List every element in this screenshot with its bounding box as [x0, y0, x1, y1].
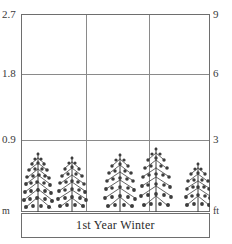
caption-box: 1st Year Winter	[21, 213, 210, 238]
axis-tick-right-6: 6	[213, 68, 232, 79]
axis-unit-left-metres: m	[2, 205, 21, 216]
tree-illustration-4	[133, 146, 179, 212]
axis-tick-left-0-9: 0.9	[2, 134, 21, 145]
tree-illustration-2	[49, 154, 95, 212]
tree-illustration-5	[177, 160, 210, 212]
caption-label: 1st Year Winter	[76, 218, 155, 233]
axis-unit-right-feet: ft	[213, 205, 232, 216]
axis-tick-right-9: 9	[213, 9, 232, 20]
growth-chart-figure: 2.7 1.8 0.9 m 9 6 3 ft	[0, 0, 232, 244]
tree-illustration-group	[21, 14, 210, 212]
axis-tick-right-3: 3	[213, 134, 232, 145]
axis-tick-left-2-7: 2.7	[2, 9, 21, 20]
axis-tick-left-1-8: 1.8	[2, 68, 21, 79]
